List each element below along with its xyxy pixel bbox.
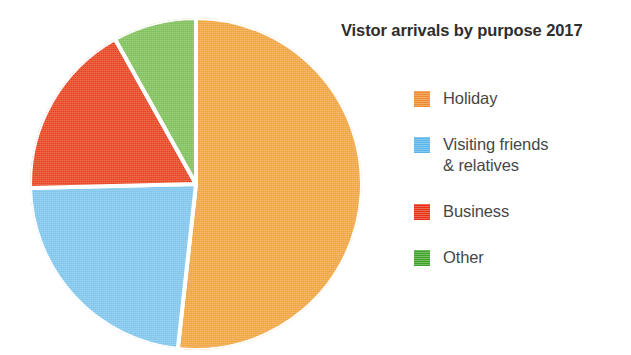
legend-label-line1: Holiday xyxy=(443,89,497,107)
legend-label-visiting-friends-relatives: Visiting friends & relatives xyxy=(443,134,548,176)
legend-label-holiday: Holiday xyxy=(443,88,497,109)
swatch-texture-icon xyxy=(414,137,430,153)
pie-svg xyxy=(29,18,363,350)
legend-item-holiday[interactable]: Holiday xyxy=(414,88,629,109)
legend-label-other: Other xyxy=(443,247,484,268)
chart-legend: Holiday Visiting friends & relatives Bus… xyxy=(414,88,629,268)
legend-swatch-other xyxy=(414,250,430,266)
swatch-texture-icon xyxy=(414,91,430,107)
legend-item-other[interactable]: Other xyxy=(414,247,629,268)
legend-swatch-holiday xyxy=(414,91,430,107)
legend-label-business: Business xyxy=(443,201,509,222)
pie-chart-graphic xyxy=(29,18,363,350)
legend-swatch-business xyxy=(414,204,430,220)
chart-title: Vistor arrivals by purpose 2017 xyxy=(341,21,626,40)
legend-label-line1: Visiting friends xyxy=(443,135,548,153)
swatch-texture-icon xyxy=(414,204,430,220)
legend-label-line1: Other xyxy=(443,248,484,266)
swatch-texture-icon xyxy=(414,250,430,266)
legend-item-visiting-friends-relatives[interactable]: Visiting friends & relatives xyxy=(414,134,629,176)
pie-slice-holiday[interactable] xyxy=(178,18,362,350)
pie-slice-visiting-friends-relatives[interactable] xyxy=(30,184,196,349)
legend-label-line2: & relatives xyxy=(443,155,548,176)
legend-swatch-visiting-friends-relatives xyxy=(414,137,430,153)
pie-chart-figure: Vistor arrivals by purpose 2017 Holiday … xyxy=(0,0,631,355)
legend-item-business[interactable]: Business xyxy=(414,201,629,222)
legend-label-line1: Business xyxy=(443,202,509,220)
pie-slices-group xyxy=(30,18,362,350)
